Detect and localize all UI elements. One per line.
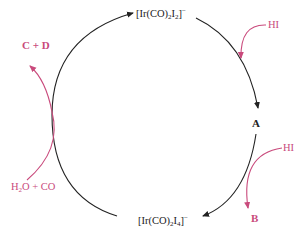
reagent-arrow-hi-1 (241, 25, 266, 58)
species-bottom-prefix: [Ir(CO) (138, 215, 170, 226)
cycle-arrow-top-to-A (196, 18, 258, 108)
reagent-hi-lower-label: HI (283, 142, 294, 153)
product-C-D-label: C + D (22, 39, 50, 51)
reagent-hi-lower: HI (283, 143, 294, 154)
reagent-water-co: H2O + CO (11, 182, 55, 194)
product-B: B (251, 213, 258, 224)
cycle-arrow-bottom-to-top (52, 13, 133, 216)
species-bottom-charge: − (184, 214, 188, 222)
species-bottom: [Ir(CO)2I4]− (138, 215, 188, 228)
species-top-charge: − (182, 7, 186, 15)
species-top-prefix: [Ir(CO) (136, 8, 168, 19)
reagent-hi-upper: HI (268, 20, 279, 31)
reagent-hi-upper-label: HI (268, 19, 279, 30)
reagent-arrow-hi-2-to-B (247, 148, 282, 208)
species-A-label: A (252, 117, 260, 129)
reagent-water-h: H (11, 181, 19, 192)
product-B-label: B (251, 212, 258, 224)
product-C-D: C + D (22, 40, 50, 51)
reagent-arrow-water-co-to-CD (27, 66, 54, 180)
species-A: A (252, 118, 260, 129)
species-top: [Ir(CO)2I2]− (136, 8, 186, 21)
cycle-arrow-A-to-bottom (203, 134, 256, 216)
reagent-water-rest: O + CO (22, 181, 55, 192)
